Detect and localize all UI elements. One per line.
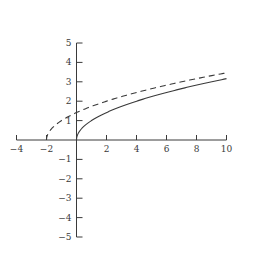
y-tick-label: 3 <box>66 77 72 87</box>
y-tick-label: 5 <box>66 38 72 48</box>
y-tick-label: 4 <box>66 57 72 67</box>
x-tick-label: −2 <box>40 144 53 154</box>
curve-sqrt-x <box>77 79 227 140</box>
y-tick-label: −3 <box>58 193 72 203</box>
x-tick-label: 8 <box>194 144 200 154</box>
curves <box>47 73 227 140</box>
y-tick-label: −1 <box>58 154 71 164</box>
chart-plot: −4−2246810−5−4−3−2−112345 <box>0 0 271 253</box>
curve-sqrt-x-plus-2 <box>47 73 227 140</box>
x-tick-label: 2 <box>104 144 110 154</box>
x-tick-label: −4 <box>10 144 24 154</box>
y-tick-label: −5 <box>58 232 72 242</box>
y-tick-label: −4 <box>58 213 72 223</box>
x-tick-label: 6 <box>164 144 170 154</box>
y-tick-label: 2 <box>66 96 72 106</box>
x-tick-label: 10 <box>221 144 233 154</box>
y-tick-label: −2 <box>58 174 71 184</box>
x-tick-label: 4 <box>134 144 140 154</box>
axes <box>17 43 227 237</box>
